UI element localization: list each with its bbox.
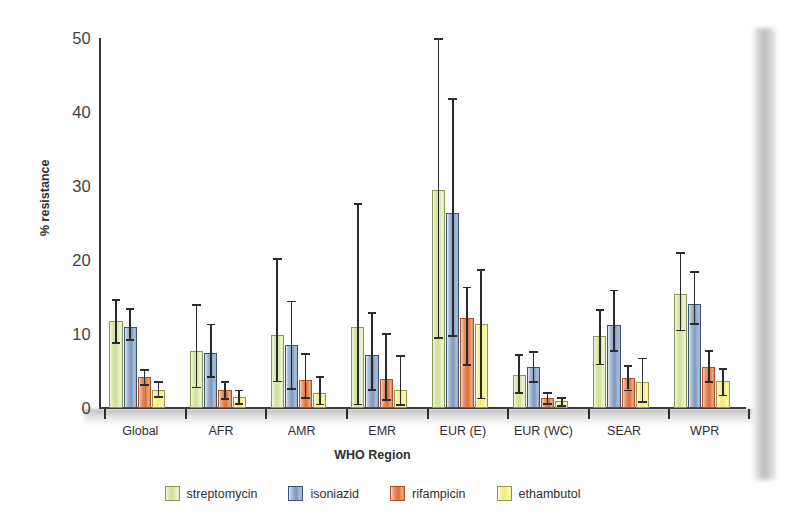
error-bar-cap-lower <box>382 399 391 401</box>
error-bar-cap-lower <box>140 384 149 386</box>
error-bar-cap-lower <box>287 388 296 390</box>
error-bar-line <box>210 324 212 377</box>
x-axis-label: WHO Region <box>0 448 745 462</box>
x-tick-label: AMR <box>288 424 316 438</box>
error-bar-line <box>371 312 373 389</box>
legend-item-rifampicin[interactable]: rifampicin <box>390 486 466 501</box>
legend-item-streptomycin[interactable]: streptomycin <box>165 486 258 501</box>
error-bar-cap-lower <box>368 389 377 391</box>
chart-legend: streptomycinisoniazidrifampicinethambuto… <box>0 486 745 501</box>
error-bar-cap-lower <box>596 364 605 366</box>
error-bar-cap-upper <box>624 365 633 367</box>
error-bar-cap-upper <box>207 324 216 326</box>
legend-swatch-isoniazid <box>288 486 303 501</box>
x-tick-mark <box>507 409 509 419</box>
error-bar-cap-upper <box>719 368 728 370</box>
error-bar-line <box>613 290 615 351</box>
error-bar-cap-lower <box>638 401 647 403</box>
error-bar-cap-lower <box>434 337 443 339</box>
error-bar-line <box>196 304 198 386</box>
x-tick-label: EMR <box>368 424 396 438</box>
error-bar-cap-upper <box>690 271 699 273</box>
error-bar-cap-upper <box>354 203 363 205</box>
error-bar-line <box>642 358 644 402</box>
error-bar-cap-upper <box>140 369 149 371</box>
error-bar-line <box>224 381 226 398</box>
error-bar-cap-upper <box>273 258 282 260</box>
error-bar-line <box>238 390 240 403</box>
x-tick-label: EUR (WC) <box>514 424 573 438</box>
error-bar-cap-upper <box>596 309 605 311</box>
error-bar-line <box>533 351 535 381</box>
x-tick-label: Global <box>122 424 158 438</box>
error-bar-line <box>305 353 307 397</box>
error-bar-line <box>319 376 321 403</box>
error-bar-cap-upper <box>515 354 524 356</box>
error-bar-cap-lower <box>624 390 633 392</box>
error-bar-cap-upper <box>112 299 121 301</box>
error-bar-cap-upper <box>557 397 566 399</box>
error-bar-cap-lower <box>316 404 325 406</box>
legend-item-ethambutol[interactable]: ethambutol <box>497 486 581 501</box>
plot-area: 01020304050 GlobalAFRAMREMREUR (E)EUR (W… <box>100 38 745 408</box>
error-bar-cap-lower <box>676 330 685 332</box>
error-bar-cap-upper <box>126 308 135 310</box>
error-bar-cap-upper <box>192 304 201 306</box>
error-bar-cap-upper <box>382 333 391 335</box>
error-bar-cap-lower <box>448 335 457 337</box>
figure: % resistance WHO Region 01020304050 Glob… <box>0 0 809 529</box>
error-bar-cap-lower <box>557 405 566 407</box>
x-tick-mark <box>588 409 590 419</box>
error-bar-cap-upper <box>610 290 619 292</box>
y-tick-label: 0 <box>82 399 91 418</box>
error-bar-line <box>144 369 146 385</box>
error-bar-cap-upper <box>368 312 377 314</box>
error-bar-cap-upper <box>705 350 714 352</box>
error-bar-cap-upper <box>316 376 325 378</box>
error-bar-cap-upper <box>529 351 538 353</box>
error-bar-line <box>680 252 682 330</box>
error-bar-cap-lower <box>463 364 472 366</box>
error-bar-cap-lower <box>719 395 728 397</box>
x-tick-label: AFR <box>208 424 233 438</box>
error-bar-cap-lower <box>705 381 714 383</box>
error-bar-cap-lower <box>529 381 538 383</box>
error-bar-line <box>129 308 131 339</box>
error-bar-cap-lower <box>354 404 363 406</box>
y-tick-label: 30 <box>72 177 91 196</box>
error-bar-cap-upper <box>448 98 457 100</box>
error-bar-cap-lower <box>301 397 310 399</box>
error-bar-line <box>466 287 468 365</box>
error-bar-line <box>357 203 359 404</box>
y-axis-label: % resistance <box>38 160 52 236</box>
x-tick-mark <box>346 409 348 419</box>
error-bar-cap-lower <box>543 403 552 405</box>
x-tick-mark <box>104 409 106 419</box>
error-bar-cap-upper <box>235 390 244 392</box>
error-bar-line <box>722 368 724 395</box>
error-bar-cap-upper <box>638 358 647 360</box>
error-bar-cap-lower <box>396 404 405 406</box>
error-bar-cap-lower <box>690 323 699 325</box>
error-bar-cap-lower <box>154 396 163 398</box>
x-tick-mark <box>427 409 429 419</box>
error-bar-line <box>400 355 402 404</box>
error-bar-line <box>385 333 387 399</box>
error-bar-cap-upper <box>221 381 230 383</box>
error-bar-cap-upper <box>287 301 296 303</box>
legend-swatch-ethambutol <box>497 486 512 501</box>
error-bar-cap-lower <box>235 403 244 405</box>
y-axis-line <box>99 38 101 408</box>
legend-swatch-streptomycin <box>165 486 180 501</box>
error-bar-cap-lower <box>221 398 230 400</box>
error-bar-cap-lower <box>477 398 486 400</box>
error-bar-line <box>438 38 440 337</box>
error-bar-cap-upper <box>463 287 472 289</box>
legend-item-isoniazid[interactable]: isoniazid <box>288 486 359 501</box>
error-bar-line <box>480 269 482 398</box>
legend-label: ethambutol <box>519 487 581 501</box>
error-bar-cap-upper <box>434 38 443 40</box>
error-bar-line <box>115 299 117 342</box>
error-bar-cap-lower <box>207 376 216 378</box>
error-bar-line <box>599 309 601 364</box>
